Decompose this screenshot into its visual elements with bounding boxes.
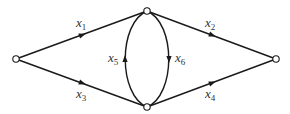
node-top	[144, 8, 150, 14]
node-source	[13, 56, 19, 62]
label-x2: x2	[204, 15, 215, 32]
label-x3: x3	[75, 86, 87, 103]
arrow-x5-icon	[122, 55, 127, 62]
node-sink	[273, 56, 279, 62]
arrow-x1-icon	[78, 31, 86, 38]
arrow-x2-icon	[208, 32, 216, 39]
label-x4: x4	[204, 86, 216, 103]
edge-x5	[125, 11, 147, 107]
network-flow-diagram: x1 x3 x2 x4 x5 x6	[0, 0, 290, 114]
label-x1: x1	[75, 15, 86, 32]
node-bottom	[144, 104, 150, 110]
arrow-x6-icon	[166, 56, 171, 63]
label-x5: x5	[107, 50, 119, 67]
edge-x6	[147, 11, 169, 107]
label-x6: x6	[174, 50, 186, 67]
